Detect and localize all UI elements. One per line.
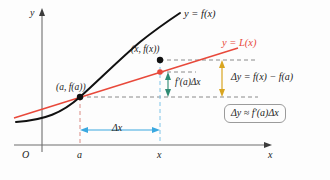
function-curve xyxy=(16,13,180,122)
point-a-label: (a, f(a)) xyxy=(56,83,86,93)
tick-label-x: x xyxy=(157,150,161,160)
delta-y-label: Δy = f(x) − f(a) xyxy=(231,72,293,82)
point-a-marker xyxy=(77,94,83,100)
derivative-term-arrow xyxy=(165,72,171,97)
derivative-term-label: f′(a)Δx xyxy=(175,78,201,88)
delta-x-label: Δx xyxy=(112,123,122,133)
boxed-result: Δy ≈ f′(a)Δx xyxy=(224,104,286,123)
diagram-canvas xyxy=(0,0,330,180)
point-lx-marker xyxy=(157,69,163,75)
y-axis xyxy=(39,8,45,152)
point-x-marker xyxy=(157,57,163,63)
linear-approximation-figure: y x O a x y = f(x) y = L(x) (a, f(a)) (x… xyxy=(0,0,330,180)
y-axis-label: y xyxy=(30,8,34,18)
origin-label: O xyxy=(22,150,29,160)
curve-label: y = f(x) xyxy=(184,9,216,20)
tangent-line-label: y = L(x) xyxy=(222,38,257,49)
tick-label-a: a xyxy=(77,150,82,160)
x-axis-label: x xyxy=(268,150,272,160)
delta-y-arrow xyxy=(219,60,225,97)
tangent-line xyxy=(14,48,238,118)
x-axis xyxy=(14,142,272,148)
curve-label-leader xyxy=(178,26,198,44)
point-x-label: (x, f(x)) xyxy=(131,45,159,55)
